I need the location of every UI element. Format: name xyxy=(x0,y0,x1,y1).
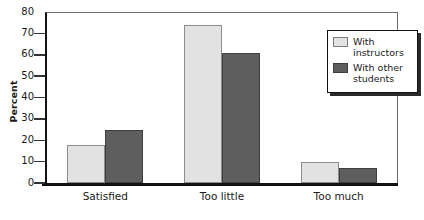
y-tick-mark xyxy=(34,161,45,163)
y-tick-label: 0 xyxy=(0,178,34,188)
y-tick-mark xyxy=(34,97,45,99)
x-category-label-satisfied: Satisfied xyxy=(47,190,164,202)
y-tick-mark xyxy=(34,118,45,120)
y-tick-label: 30 xyxy=(0,113,34,123)
y-tick-label: 40 xyxy=(0,92,34,102)
y-tick-mark xyxy=(34,54,45,56)
y-tick-mark xyxy=(34,140,45,142)
y-tick-label: 80 xyxy=(0,7,34,17)
legend-label-with-other-students: With other students xyxy=(353,62,403,84)
y-tick-mark xyxy=(34,33,45,35)
bar-satisfied-with-other-students xyxy=(105,130,143,183)
y-tick-mark xyxy=(34,75,45,77)
legend-swatch-icon-dark xyxy=(333,63,348,73)
legend-swatch-icon-light xyxy=(333,37,348,47)
y-tick-label: 10 xyxy=(0,156,34,166)
bar-too-much-with-instructors xyxy=(301,162,339,183)
bar-satisfied-with-instructors xyxy=(67,145,105,183)
legend-item-with-other-students: With other students xyxy=(333,62,413,84)
bar-too-little-with-instructors xyxy=(184,25,222,183)
x-axis-line xyxy=(42,183,398,186)
legend-item-with-instructors: With instructors xyxy=(333,36,413,58)
legend-label-with-instructors: With instructors xyxy=(353,36,404,58)
chart-legend: With instructors With other students xyxy=(327,30,418,93)
bar-chart: Percent 01020304050607080 SatisfiedToo l… xyxy=(0,0,424,220)
y-tick-label: 20 xyxy=(0,135,34,145)
bar-too-much-with-other-students xyxy=(339,168,377,183)
bar-too-little-with-other-students xyxy=(222,53,260,183)
y-tick-mark xyxy=(34,182,45,184)
y-tick-label: 70 xyxy=(0,28,34,38)
x-category-label-too-little: Too little xyxy=(164,190,281,202)
y-tick-label: 50 xyxy=(0,71,34,81)
x-category-label-too-much: Too much xyxy=(280,190,397,202)
y-tick-label: 60 xyxy=(0,49,34,59)
